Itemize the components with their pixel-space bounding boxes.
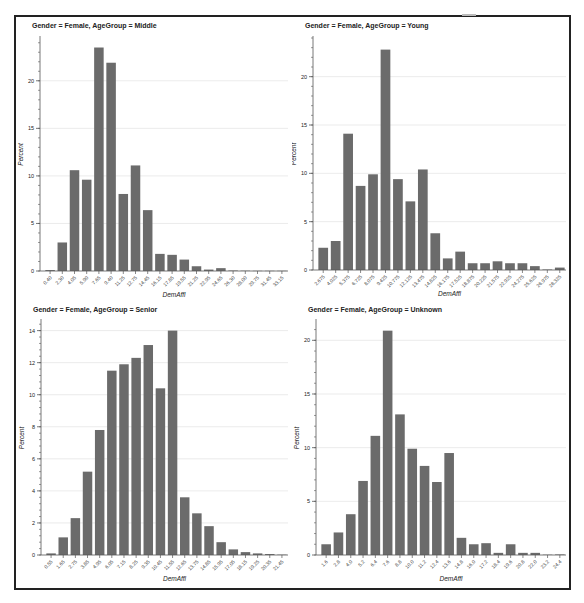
- histogram-bar: [204, 526, 213, 555]
- x-tick-label: 22.925: [498, 273, 513, 288]
- x-tick-label: 8.075: [363, 273, 376, 286]
- x-axis-label: DemAffl: [162, 291, 186, 298]
- x-tick-label: 28.325: [547, 273, 562, 288]
- y-tick-label: 8: [32, 424, 35, 430]
- y-tick-label: 0: [31, 268, 34, 274]
- histogram-bar: [167, 255, 177, 271]
- panel-title: Gender = Female, AgeGroup = Senior: [33, 306, 157, 314]
- histogram-bar: [432, 482, 442, 555]
- histogram-bar: [106, 63, 116, 271]
- x-tick-label: 21.25: [186, 274, 199, 287]
- histogram-bar: [192, 513, 201, 555]
- x-tick-label: 24.65: [211, 274, 224, 287]
- x-tick-label: 2.8: [332, 558, 341, 567]
- y-tick-label: 14: [29, 328, 35, 334]
- x-tick-label: 9.40: [103, 274, 114, 285]
- histogram-bar: [468, 263, 478, 270]
- x-tick-label: 22.95: [198, 274, 211, 287]
- x-tick-label: 26.30: [223, 274, 236, 287]
- y-tick-label: 0: [32, 552, 35, 558]
- x-tick-label: 16.175: [435, 273, 450, 288]
- histogram-bar: [156, 388, 165, 555]
- histogram-bar: [356, 186, 366, 270]
- x-tick-label: 8.8: [393, 558, 402, 567]
- x-tick-label: 22.0: [527, 558, 538, 569]
- x-tick-label: 2.30: [54, 274, 65, 285]
- histogram-bar: [71, 518, 80, 555]
- histogram-bar: [444, 453, 454, 555]
- histogram-bar: [343, 134, 353, 270]
- y-tick-label: 10: [29, 392, 35, 398]
- x-tick-label: 16.15: [150, 274, 163, 287]
- histogram-bar: [530, 266, 540, 270]
- x-tick-label: 20.225: [473, 273, 488, 288]
- x-tick-label: 18.4: [490, 558, 501, 569]
- histogram-bar: [395, 414, 405, 555]
- y-tick-label: 0: [304, 267, 307, 273]
- x-tick-label: 11.55: [162, 558, 175, 571]
- x-tick-label: 26.975: [535, 273, 550, 288]
- x-tick-label: 11.2: [416, 558, 427, 569]
- top-mark: [462, 14, 476, 16]
- histogram-bar: [407, 449, 417, 555]
- histogram-bar: [95, 430, 104, 555]
- histogram-bar: [58, 537, 67, 555]
- histogram-bar: [216, 268, 226, 271]
- histogram-bar: [481, 543, 491, 555]
- x-tick-label: 28.00: [235, 274, 248, 287]
- x-tick-label: 4.0: [344, 558, 353, 567]
- histogram-bar: [371, 436, 381, 555]
- histogram-bar: [241, 552, 250, 555]
- histogram-young: Gender = Female, AgeGroup = Young0510152…: [292, 18, 570, 300]
- histogram-bar: [58, 242, 68, 271]
- x-tick-label: 20.8: [515, 558, 526, 569]
- x-tick-label: 17.05: [223, 558, 236, 571]
- x-tick-label: 25.625: [523, 273, 538, 288]
- histogram-bar: [346, 514, 356, 555]
- x-tick-label: 5.375: [338, 273, 351, 286]
- histogram-bar: [192, 266, 202, 271]
- x-tick-label: 10.0: [404, 558, 415, 569]
- x-axis-label: DemAffl: [163, 575, 187, 582]
- y-tick-label: 10: [301, 170, 307, 176]
- histogram-bar: [393, 179, 403, 270]
- x-tick-label: 8.25: [128, 558, 139, 569]
- y-tick-label: 5: [307, 498, 310, 504]
- histogram-bar: [368, 174, 378, 270]
- y-tick-label: 15: [304, 391, 310, 397]
- x-tick-label: 10.775: [386, 273, 401, 288]
- histogram-bar: [469, 544, 479, 555]
- x-tick-label: 12.125: [398, 273, 413, 288]
- x-tick-label: 2.675: [313, 273, 326, 286]
- y-tick-label: 12: [29, 360, 35, 366]
- histogram-unknown: Gender = Female, AgeGroup = Unknown05101…: [292, 302, 570, 590]
- x-tick-label: 12.4: [428, 558, 439, 569]
- panel-senior: Gender = Female, AgeGroup = Senior024681…: [16, 302, 292, 590]
- histogram-bar: [155, 254, 165, 271]
- x-tick-label: 4.95: [91, 558, 102, 569]
- y-tick-label: 0: [307, 552, 310, 558]
- histogram-bar: [358, 481, 368, 555]
- x-tick-label: 31.45: [259, 274, 272, 287]
- panel-title: Gender = Female, AgeGroup = Young: [305, 22, 429, 30]
- y-tick-label: 15: [301, 122, 307, 128]
- x-tick-label: 12.65: [174, 558, 187, 571]
- x-tick-label: 24.275: [510, 273, 525, 288]
- histogram-bar: [229, 549, 238, 555]
- histogram-bar: [180, 260, 190, 271]
- histogram-bar: [144, 345, 153, 555]
- x-tick-label: 6.725: [350, 273, 363, 286]
- histogram-bar: [418, 169, 428, 270]
- x-tick-label: 17.2: [478, 558, 489, 569]
- x-tick-label: 3.85: [79, 558, 90, 569]
- x-tick-label: 6.05: [103, 558, 114, 569]
- histogram-middle: Gender = Female, AgeGroup = Middle051015…: [16, 18, 292, 300]
- x-tick-label: 10.45: [150, 558, 163, 571]
- histogram-bar: [119, 194, 129, 271]
- x-tick-label: 23.2: [539, 558, 550, 569]
- x-tick-label: 4.025: [325, 273, 338, 286]
- histogram-bar: [480, 263, 490, 270]
- x-tick-label: 14.8: [453, 558, 464, 569]
- x-tick-label: 14.825: [423, 273, 438, 288]
- histogram-bar: [493, 261, 503, 270]
